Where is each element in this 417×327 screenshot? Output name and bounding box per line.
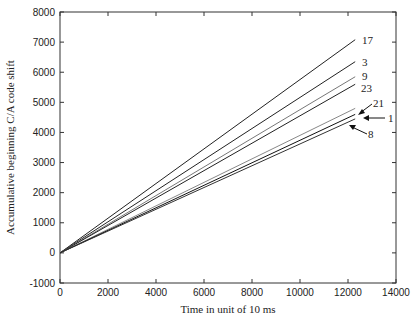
series-line-1 — [60, 114, 355, 253]
y-tick-label: 5000 — [33, 97, 56, 108]
series-label-17: 17 — [362, 34, 374, 46]
plot-frame — [60, 12, 396, 283]
series-line-3 — [60, 62, 355, 253]
y-tick-label: 0 — [49, 247, 55, 258]
series-label-3: 3 — [362, 56, 368, 68]
series-label-8: 8 — [368, 128, 374, 140]
x-tick-label: 12000 — [334, 287, 362, 298]
series-line-23 — [60, 84, 355, 253]
line-chart: 02000400060008000100001200014000-1000010… — [0, 0, 417, 327]
series-line-17 — [60, 40, 355, 253]
y-tick-label: 6000 — [33, 67, 56, 78]
arrow-8 — [352, 127, 367, 134]
y-tick-label: 1000 — [33, 217, 56, 228]
y-tick-label: 4000 — [33, 127, 56, 138]
series-label-9: 9 — [362, 70, 368, 82]
x-tick-label: 2000 — [97, 287, 120, 298]
series-line-21 — [60, 108, 355, 253]
series-label-21: 21 — [373, 97, 384, 109]
x-tick-label: 10000 — [286, 287, 314, 298]
x-tick-label: 0 — [57, 287, 63, 298]
x-tick-label: 14000 — [382, 287, 410, 298]
y-tick-label: 7000 — [33, 37, 56, 48]
series-label-23: 23 — [361, 82, 373, 94]
x-tick-label: 6000 — [193, 287, 216, 298]
arrowhead-8 — [349, 125, 356, 130]
y-tick-label: 3000 — [33, 157, 56, 168]
series-line-9 — [60, 77, 355, 253]
x-axis-label: Time in unit of 10 ms — [180, 303, 275, 315]
series-label-1: 1 — [388, 112, 394, 124]
series-line-8 — [60, 119, 355, 253]
arrowhead-1 — [363, 115, 369, 121]
y-tick-label: 8000 — [33, 7, 56, 18]
y-tick-label: 2000 — [33, 187, 56, 198]
x-tick-label: 4000 — [145, 287, 168, 298]
x-tick-label: 8000 — [241, 287, 264, 298]
y-tick-label: -1000 — [29, 278, 55, 289]
y-axis-label: Accumulative beginning C/A code shift — [4, 60, 16, 235]
